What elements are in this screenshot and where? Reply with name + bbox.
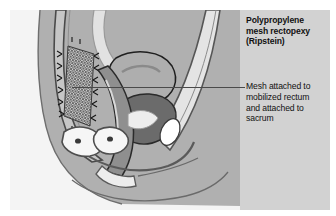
figure-title-line-2: mesh rectopexy: [246, 26, 334, 37]
figure-title-line-3: (Ripstein): [246, 36, 334, 47]
figure-title-line-1: Polypropylene: [246, 15, 334, 26]
mesh-annotation-label: Mesh attached to mobilized rectum and at…: [246, 81, 336, 124]
figure-canvas: Polypropylene mesh rectopexy (Ripstein) …: [0, 0, 336, 216]
mesh-annotation-line-1: Mesh attached to: [246, 81, 336, 92]
mesh-annotation-line-4: sacrum: [246, 113, 336, 124]
figure-title: Polypropylene mesh rectopexy (Ripstein): [246, 15, 334, 47]
mesh-annotation-line-3: and attached to: [246, 103, 336, 114]
mesh-annotation-line-2: mobilized rectum: [246, 92, 336, 103]
